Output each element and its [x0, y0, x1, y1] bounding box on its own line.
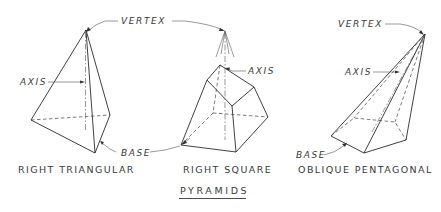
- base-callout-shared: BASE: [121, 146, 180, 158]
- caption-right-square: RIGHT SQUARE: [183, 164, 272, 175]
- axis-label-triangular: AXIS: [19, 77, 47, 87]
- caption-oblique-pentagonal: OBLIQUE PENTAGONAL: [298, 164, 433, 175]
- caption-right-triangular: RIGHT TRIANGULAR: [18, 164, 135, 175]
- right-triangular-pyramid: AXIS: [19, 30, 116, 153]
- vertex-callout-shared: VERTEX: [86, 16, 225, 32]
- axis-label-square: AXIS: [247, 66, 275, 76]
- diagram-title: PYRAMIDS: [180, 185, 249, 196]
- pyramids-diagram: AXIS AXIS VE: [0, 0, 441, 212]
- axis-label-oblique: AXIS: [344, 67, 372, 77]
- vertex-label: VERTEX: [121, 16, 166, 26]
- right-square-pyramid: AXIS: [181, 31, 275, 152]
- base-label: BASE: [121, 148, 151, 158]
- base-label-oblique: BASE: [296, 150, 326, 160]
- vertex-label-oblique: VERTEX: [338, 19, 383, 29]
- oblique-pentagonal-pyramid: VERTEX AXIS BASE: [296, 19, 425, 160]
